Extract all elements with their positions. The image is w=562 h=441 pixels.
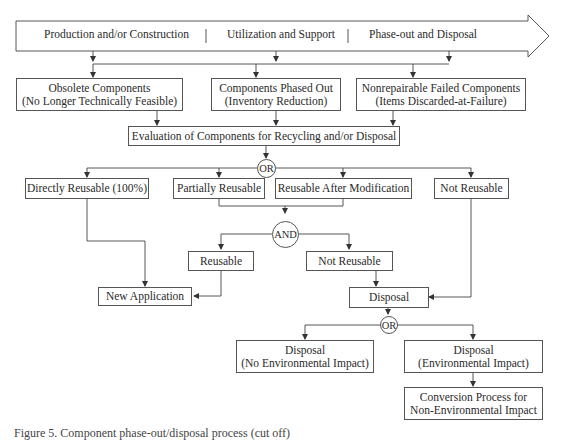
phase-utilization: Utilization and Support [227,28,335,40]
obsolete-components-box: Obsolete Components (No Longer Technical… [16,78,183,111]
evaluation-box: Evaluation of Components for Recycling a… [128,126,400,146]
disposal-no-impact-subtitle: (No Environmental Impact) [241,357,369,370]
reusable-label: Reusable [200,255,242,268]
not-reusable-label: Not Reusable [440,182,502,195]
disposal-impact-subtitle: (Environmental Impact) [418,357,529,370]
phased-out-title: Components Phased Out [219,82,333,95]
reusable-box: Reusable [188,251,254,271]
partially-reusable-label: Partially Reusable [177,182,261,195]
new-application-label: New Application [106,290,184,303]
conversion-line1: Conversion Process for [420,391,527,404]
conversion-line2: Non-Environmental Impact [410,404,537,417]
reusable-after-modification-box: Reusable After Modification [275,178,412,199]
directly-reusable-label: Directly Reusable (100%) [27,182,147,195]
and-gate: AND [272,221,299,248]
disposal-box: Disposal [349,287,429,308]
obsolete-title: Obsolete Components [49,82,151,95]
disposal-impact-title: Disposal [453,344,493,357]
reusable-after-modification-label: Reusable After Modification [278,182,410,195]
not-reusable-box: Not Reusable [434,178,509,199]
disposal-no-impact-title: Disposal [285,344,325,357]
partially-reusable-box: Partially Reusable [173,178,265,199]
not-reusable-and-box: Not Reusable [306,251,393,271]
phased-out-box: Components Phased Out (Inventory Reducti… [211,78,341,111]
or-gate-1: OR [257,159,276,178]
nonrepairable-subtitle: (Items Discarded-at-Failure) [375,95,506,108]
and-gate-label: AND [274,229,297,240]
conversion-box: Conversion Process for Non-Environmental… [404,387,543,420]
nonrepairable-box: Nonrepairable Failed Components (Items D… [356,78,526,111]
disposal-impact-box: Disposal (Environmental Impact) [404,340,543,373]
not-reusable-and-label: Not Reusable [318,255,380,268]
directly-reusable-box: Directly Reusable (100%) [25,178,149,199]
disposal-no-impact-box: Disposal (No Environmental Impact) [236,340,374,373]
figure-caption: Figure 5. Component phase-out/disposal p… [14,426,290,441]
phase-phaseout: Phase-out and Disposal [369,28,477,40]
evaluation-label: Evaluation of Components for Recycling a… [132,130,396,143]
disposal-label: Disposal [369,291,409,304]
nonrepairable-title: Nonrepairable Failed Components [362,82,520,95]
phase-production: Production and/or Construction [44,28,189,40]
or-gate-1-label: OR [259,163,274,174]
or-gate-2: OR [380,316,398,334]
obsolete-subtitle: (No Longer Technically Feasible) [22,95,177,108]
or-gate-2-label: OR [382,320,397,331]
new-application-box: New Application [98,287,192,306]
phased-out-subtitle: (Inventory Reduction) [225,95,328,108]
